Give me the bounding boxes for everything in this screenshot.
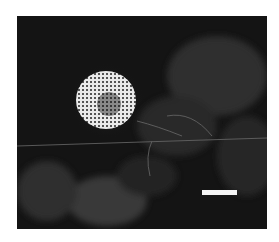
- cluster-core: [97, 92, 121, 116]
- background-tissue: [17, 36, 267, 226]
- micrograph: [17, 16, 267, 229]
- micrograph-content: [17, 16, 267, 229]
- scale-bar: [202, 190, 237, 195]
